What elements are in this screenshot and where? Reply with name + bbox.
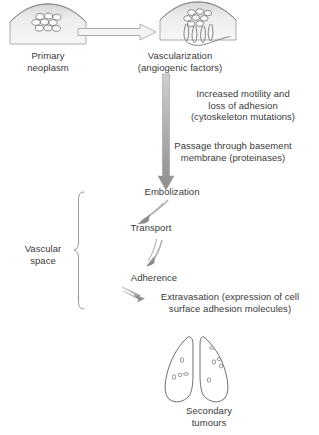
- block-arrow-right-icon: [78, 24, 156, 40]
- node-label-transport: Transport: [110, 222, 192, 234]
- node-label-vascular-space: Vascular space: [12, 243, 74, 266]
- tumour-mound-icon: [10, 4, 86, 44]
- node-label-adherence: Adherence: [112, 272, 196, 284]
- node-label-embolization: Embolization: [122, 186, 222, 198]
- vascularized-tumour-icon: [160, 2, 236, 45]
- lungs-icon: [165, 337, 228, 402]
- node-label-increased-motility: Increased motility and loss of adhesion …: [168, 88, 318, 123]
- node-label-secondary-tumours: Secondary tumours: [166, 405, 252, 428]
- node-label-passage-basement-membrane: Passage through basement membrane (prote…: [148, 140, 318, 163]
- node-label-primary-neoplasm: Primary neoplasm: [8, 50, 88, 73]
- curly-brace-icon: [74, 192, 84, 309]
- metastatic-cascade-diagram: Primary neoplasm Vascularization (angiog…: [0, 0, 319, 435]
- node-label-vascularization: Vascularization (angiogenic factors): [110, 50, 250, 73]
- node-label-extravasation: Extravasation (expression of cell surfac…: [142, 291, 318, 314]
- curved-arrow-icon: [146, 239, 162, 267]
- curved-arrow-icon: [138, 200, 169, 224]
